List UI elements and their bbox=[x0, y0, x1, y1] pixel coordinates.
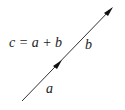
vector-line bbox=[22, 8, 112, 101]
vector-addition-diagram: c = a + b b a bbox=[0, 0, 125, 110]
vector-a-label: a bbox=[46, 81, 53, 96]
equation-label: c = a + b bbox=[9, 35, 62, 50]
vector-b-label: b bbox=[85, 37, 92, 52]
